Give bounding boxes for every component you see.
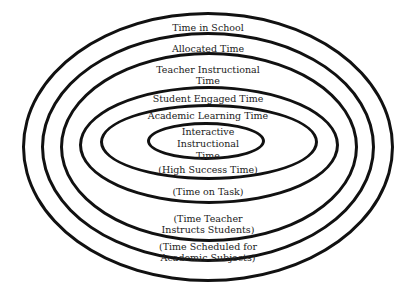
label-time-scheduled-line1: (Time Scheduled for [0,241,416,252]
label-interactive-instructional-time-line3: Time [0,150,416,161]
label-teacher-instructional-time-line1: Teacher Instructional [0,64,416,75]
label-time-scheduled-line2: Academic Subjects) [0,252,416,263]
label-time-in-school: Time in School [0,22,416,33]
label-allocated-time: Allocated Time [0,43,416,54]
label-interactive-instructional-time-line1: Interactive [0,126,416,137]
nested-time-diagram: Time in School Allocated Time Teacher In… [0,0,416,292]
label-student-engaged-time: Student Engaged Time [0,93,416,104]
label-time-teacher-instructs-line2: Instructs Students) [0,224,416,235]
label-academic-learning-time: Academic Learning Time [0,110,416,121]
label-teacher-instructional-time-line2: Time [0,75,416,86]
label-interactive-instructional-time-line2: Instructional [0,138,416,149]
label-time-teacher-instructs-line1: (Time Teacher [0,213,416,224]
label-time-on-task: (Time on Task) [0,186,416,197]
label-high-success-time: (High Success Time) [0,164,416,175]
